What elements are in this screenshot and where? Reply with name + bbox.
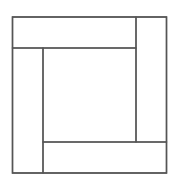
pinwheel-square-diagram [0,0,181,179]
left-rectangle [13,48,44,173]
right-rectangle [136,17,167,142]
outer-square [13,17,167,173]
bottom-rectangle [43,142,167,173]
center-square [43,48,136,142]
top-rectangle [13,17,137,48]
